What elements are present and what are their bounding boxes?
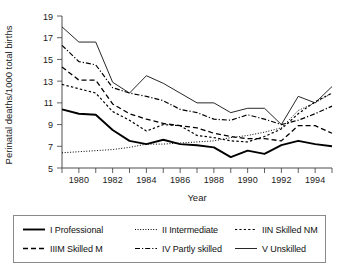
x-axis-tick-labels: 1980 1982 1984 1986 1988 1990 1992 1994 xyxy=(69,175,325,185)
legend-item-iin-skilled-nm: IIN Skilled NM xyxy=(235,225,336,235)
y-tick-label: 13 xyxy=(43,77,53,87)
x-tick-label: 1992 xyxy=(271,175,291,185)
x-tick-label: 1990 xyxy=(238,175,258,185)
chart-legend: I Professional II Intermediate IIN Skill… xyxy=(13,215,326,263)
y-tick-label: 7 xyxy=(48,142,53,152)
legend-label: IV Partly skilled xyxy=(162,244,222,254)
legend-item-iiim-skilled-m: IIIM Skilled M xyxy=(23,244,135,254)
y-axis-tick-labels: 19 17 15 13 11 9 7 5 xyxy=(43,12,53,174)
x-tick-label: 1982 xyxy=(103,175,123,185)
x-tick-label: 1986 xyxy=(170,175,190,185)
legend-swatch-solid-thin xyxy=(235,244,257,253)
y-tick-label: 5 xyxy=(48,164,53,174)
series-line-v-unskilled xyxy=(62,27,332,125)
legend-swatch-dotted xyxy=(135,225,157,234)
x-axis-ticks xyxy=(62,168,332,173)
chart-screenshot: Perinatal deaths/1000 total births 19 17… xyxy=(0,0,341,277)
x-tick-label: 1984 xyxy=(136,175,156,185)
y-axis-ticks xyxy=(57,16,62,168)
x-tick-label: 1988 xyxy=(204,175,224,185)
y-tick-label: 15 xyxy=(43,55,53,65)
series-group xyxy=(62,27,332,157)
legend-label: V Unskilled xyxy=(262,244,306,254)
series-line-iiim-skilled-m xyxy=(62,67,332,141)
legend-item-ii-intermediate: II Intermediate xyxy=(135,225,235,235)
x-axis-title: Year xyxy=(187,192,206,203)
y-tick-label: 17 xyxy=(43,33,53,43)
y-tick-label: 19 xyxy=(43,12,53,22)
y-axis-title: Perinatal deaths/1000 total births xyxy=(3,25,14,164)
legend-swatch-solid-thick xyxy=(23,225,45,234)
legend-swatch-dashed-short xyxy=(235,225,257,234)
legend-label: II Intermediate xyxy=(162,225,218,235)
perinatal-deaths-line-chart: Perinatal deaths/1000 total births 19 17… xyxy=(0,0,341,205)
legend-label: IIIM Skilled M xyxy=(50,244,103,254)
legend-swatch-dashed-long xyxy=(23,244,45,253)
y-tick-label: 11 xyxy=(44,98,53,108)
legend-item-iv-partly-skilled: IV Partly skilled xyxy=(135,244,235,254)
legend-item-i-professional: I Professional xyxy=(23,225,135,235)
legend-label: IIN Skilled NM xyxy=(262,225,318,235)
series-line-ii-intermediate xyxy=(62,93,332,153)
legend-label: I Professional xyxy=(50,225,103,235)
chart-plot-panel: Perinatal deaths/1000 total births 19 17… xyxy=(0,0,341,205)
legend-item-v-unskilled: V Unskilled xyxy=(235,244,336,254)
x-tick-label: 1980 xyxy=(69,175,89,185)
y-tick-label: 9 xyxy=(48,120,53,130)
x-tick-label: 1994 xyxy=(305,175,325,185)
legend-swatch-dash-dot xyxy=(135,244,157,253)
